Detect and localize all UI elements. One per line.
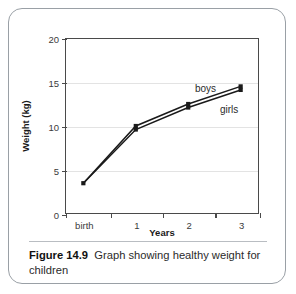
series-label-boys: boys	[195, 83, 216, 94]
chart-plot-region: Weight (kg) 05101520 birth123 Years boys…	[9, 15, 287, 237]
series-lines-svg	[9, 15, 287, 237]
figure-caption: Figure 14.9 Graph showing healthy weight…	[29, 248, 273, 277]
caption-divider	[29, 241, 267, 242]
figure-caption-label: Figure 14.9	[29, 249, 94, 261]
series-line-girls	[83, 90, 240, 183]
figure-card: Weight (kg) 05101520 birth123 Years boys…	[8, 8, 286, 284]
data-point-marker	[186, 105, 190, 109]
data-point-marker	[239, 88, 243, 92]
series-line-boys	[83, 86, 240, 183]
series-label-girls: girls	[220, 104, 238, 115]
data-point-marker	[134, 127, 138, 131]
